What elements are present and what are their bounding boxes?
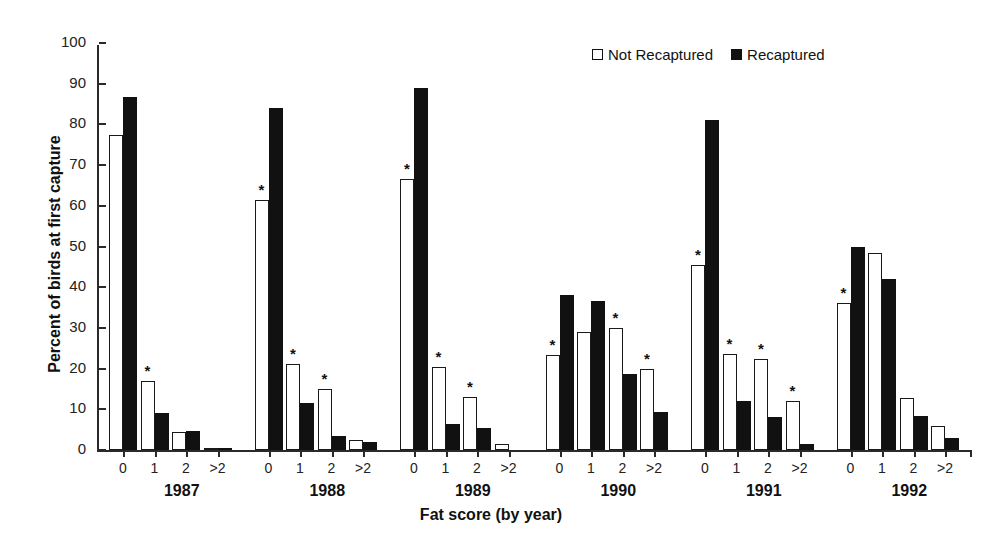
- significance-asterisk: *: [609, 313, 623, 323]
- group-label-1987: 1987: [122, 482, 242, 500]
- x-tick-mark: [363, 450, 365, 457]
- fat-score-slot: *: [432, 45, 462, 450]
- significance-asterisk: *: [640, 354, 654, 364]
- group-label-1990: 1990: [558, 482, 678, 500]
- bar-recaptured: [914, 416, 928, 450]
- x-tick-mark: [705, 450, 707, 457]
- fat-score-slot: *: [837, 45, 867, 450]
- group-label-1992: 1992: [849, 482, 969, 500]
- x-tick-label: 0: [688, 460, 722, 476]
- y-tick-label: 60: [69, 196, 86, 213]
- group-label-1989: 1989: [413, 482, 533, 500]
- y-tick-label: 70: [69, 155, 86, 172]
- y-axis-title: Percent of birds at first capture: [46, 44, 64, 464]
- bar-not-recaptured: [349, 440, 363, 450]
- bar-recaptured: [332, 436, 346, 450]
- bar-not-recaptured: [204, 448, 218, 450]
- x-tick-mark: [945, 450, 947, 457]
- bar-recaptured: [705, 120, 719, 450]
- bar-recaptured: [269, 108, 283, 450]
- bar-not-recaptured: [837, 303, 851, 450]
- y-tick-label: 100: [61, 33, 86, 50]
- white-square-icon: [592, 49, 603, 60]
- x-tick-mark: [800, 450, 802, 457]
- x-tick-mark: [882, 450, 884, 457]
- x-tick-label: >2: [783, 460, 817, 476]
- group-label-1988: 1988: [267, 482, 387, 500]
- legend-item-recaptured[interactable]: Recaptured: [731, 46, 825, 63]
- legend: Not Recaptured Recaptured: [592, 46, 825, 63]
- x-tick-mark: [155, 450, 157, 457]
- significance-asterisk: *: [141, 366, 155, 376]
- x-tick-label: 1: [138, 460, 172, 476]
- bar-recaptured: [851, 247, 865, 451]
- bar-recaptured: [186, 431, 200, 450]
- significance-asterisk: *: [546, 340, 560, 350]
- bar-recaptured: [737, 401, 751, 450]
- fat-score-slot: *: [786, 45, 816, 450]
- bar-not-recaptured: [577, 332, 591, 450]
- group-label-1991: 1991: [704, 482, 824, 500]
- fat-score-slot: [577, 45, 607, 450]
- bar-recaptured: [654, 412, 668, 450]
- x-tick-mark: [851, 450, 853, 457]
- bar-not-recaptured: [495, 444, 509, 450]
- bar-recaptured: [591, 301, 605, 450]
- bar-recaptured: [623, 374, 637, 450]
- fat-score-slot: [868, 45, 898, 450]
- bar-not-recaptured: [546, 355, 560, 450]
- x-tick-label: 1: [429, 460, 463, 476]
- fat-score-slot: *: [286, 45, 316, 450]
- x-tick-label: 0: [252, 460, 286, 476]
- y-tick-label: 90: [69, 74, 86, 91]
- x-tick-label: >2: [637, 460, 671, 476]
- x-tick-mark: [332, 450, 334, 457]
- fat-score-slot: *: [318, 45, 348, 450]
- fat-score-slot: [109, 45, 139, 450]
- bar-not-recaptured: [691, 265, 705, 450]
- x-tick-mark: [560, 450, 562, 457]
- significance-asterisk: *: [318, 374, 332, 384]
- fat-score-slot: *: [691, 45, 721, 450]
- y-tick-label: 30: [69, 318, 86, 335]
- x-tick-mark: [768, 450, 770, 457]
- bar-not-recaptured: [463, 397, 477, 450]
- significance-asterisk: *: [400, 164, 414, 174]
- bar-not-recaptured: [432, 367, 446, 450]
- significance-asterisk: *: [432, 352, 446, 362]
- bar-not-recaptured: [640, 369, 654, 450]
- significance-asterisk: *: [723, 339, 737, 349]
- x-tick-mark: [414, 450, 416, 457]
- y-tick-label: 0: [78, 440, 86, 457]
- legend-label-recaptured: Recaptured: [747, 46, 825, 63]
- bar-recaptured: [446, 424, 460, 450]
- year-group-1990: 0*12*>2*1990: [536, 45, 682, 450]
- significance-asterisk: *: [786, 386, 800, 396]
- y-tick-label: 20: [69, 359, 86, 376]
- fat-score-slot: *: [400, 45, 430, 450]
- x-tick-label: 2: [751, 460, 785, 476]
- fat-score-slot: [172, 45, 202, 450]
- year-group-1989: 0*1*2*>21989: [390, 45, 536, 450]
- x-tick-mark: [509, 450, 511, 457]
- bar-not-recaptured: [723, 354, 737, 450]
- bar-recaptured: [363, 442, 377, 450]
- x-tick-label: 2: [460, 460, 494, 476]
- bar-not-recaptured: [786, 401, 800, 450]
- fat-score-slot: [495, 45, 525, 450]
- y-tick-mark: [99, 42, 106, 44]
- x-tick-label: 1: [865, 460, 899, 476]
- legend-item-not-recaptured[interactable]: Not Recaptured: [592, 46, 713, 63]
- bar-not-recaptured: [141, 381, 155, 450]
- x-tick-label: 0: [106, 460, 140, 476]
- x-tick-mark: [737, 450, 739, 457]
- significance-asterisk: *: [754, 344, 768, 354]
- bar-not-recaptured: [868, 253, 882, 450]
- bar-not-recaptured: [609, 328, 623, 450]
- bar-not-recaptured: [286, 364, 300, 450]
- x-tick-mark: [186, 450, 188, 457]
- x-tick-mark: [477, 450, 479, 457]
- fat-score-slot: [204, 45, 234, 450]
- fat-score-slot: *: [463, 45, 493, 450]
- significance-asterisk: *: [286, 349, 300, 359]
